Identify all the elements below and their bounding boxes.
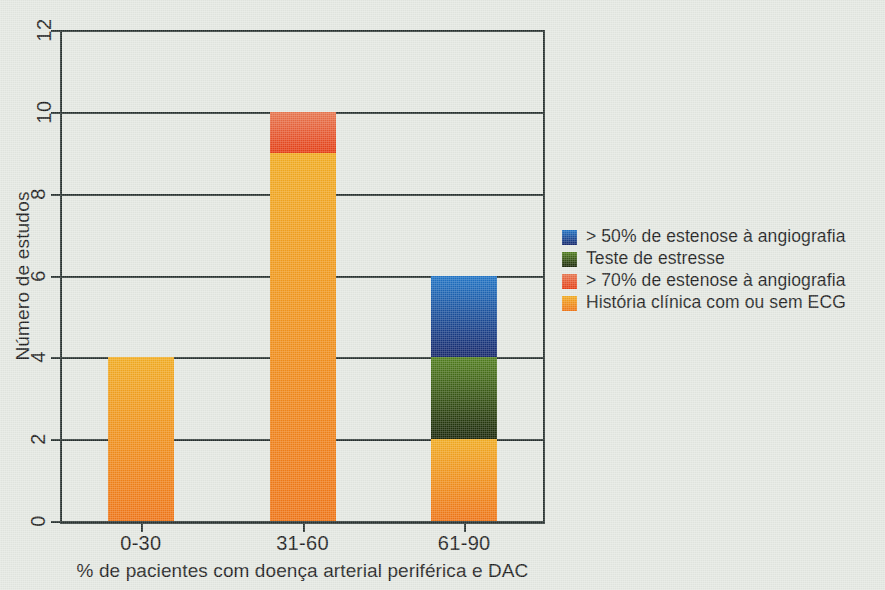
y-tick-label: 2 <box>28 433 48 445</box>
chart-legend: > 50% de estenose à angiografiaTeste de … <box>562 226 846 314</box>
bar-stack[interactable] <box>108 357 174 521</box>
y-tick-mark <box>51 194 60 196</box>
x-tick-label: 0-30 <box>120 532 161 555</box>
bar-stack[interactable] <box>431 276 497 522</box>
bar-segment[interactable] <box>270 112 336 153</box>
plot-area <box>60 30 545 521</box>
x-tick-mark <box>141 521 143 532</box>
y-tick-mark <box>51 439 60 441</box>
bar-segment[interactable] <box>431 439 497 521</box>
y-tick-mark <box>51 30 60 32</box>
bar-segment[interactable] <box>431 357 497 439</box>
legend-item-label: > 50% de estenose à angiografia <box>586 228 845 246</box>
x-tick-label: 61-90 <box>438 532 491 555</box>
legend-item-label: Teste de estresse <box>586 250 725 268</box>
x-tick-label: 31-60 <box>276 532 329 555</box>
legend-item[interactable]: > 70% de estenose à angiografia <box>562 270 846 292</box>
legend-swatch <box>562 252 577 267</box>
bar-stack[interactable] <box>270 112 336 521</box>
gridline <box>60 30 545 32</box>
legend-item[interactable]: > 50% de estenose à angiografia <box>562 226 846 248</box>
bar-segment[interactable] <box>108 357 174 521</box>
y-tick-mark <box>51 357 60 359</box>
legend-item-label: História clínica com ou sem ECG <box>586 294 846 312</box>
y-tick-label: 6 <box>28 270 48 282</box>
legend-swatch <box>562 230 577 245</box>
x-tick-mark <box>303 521 305 532</box>
x-tick-mark <box>464 521 466 532</box>
legend-item-label: > 70% de estenose à angiografia <box>586 272 845 290</box>
y-tick-label: 4 <box>28 352 48 364</box>
y-tick-mark <box>51 521 60 523</box>
y-tick-label: 8 <box>28 188 48 200</box>
y-tick-mark <box>51 112 60 114</box>
bar-segment[interactable] <box>431 276 497 358</box>
y-tick-mark <box>51 276 60 278</box>
bar-segment[interactable] <box>270 153 336 521</box>
y-tick-label: 0 <box>28 515 48 527</box>
legend-swatch <box>562 274 577 289</box>
x-axis-title: % de pacientes com doença arterial perif… <box>60 560 545 582</box>
chart-figure: Número de estudos 024681012 0-3031-6061-… <box>0 0 885 590</box>
legend-item[interactable]: História clínica com ou sem ECG <box>562 292 846 314</box>
legend-item[interactable]: Teste de estresse <box>562 248 846 270</box>
legend-swatch <box>562 296 577 311</box>
